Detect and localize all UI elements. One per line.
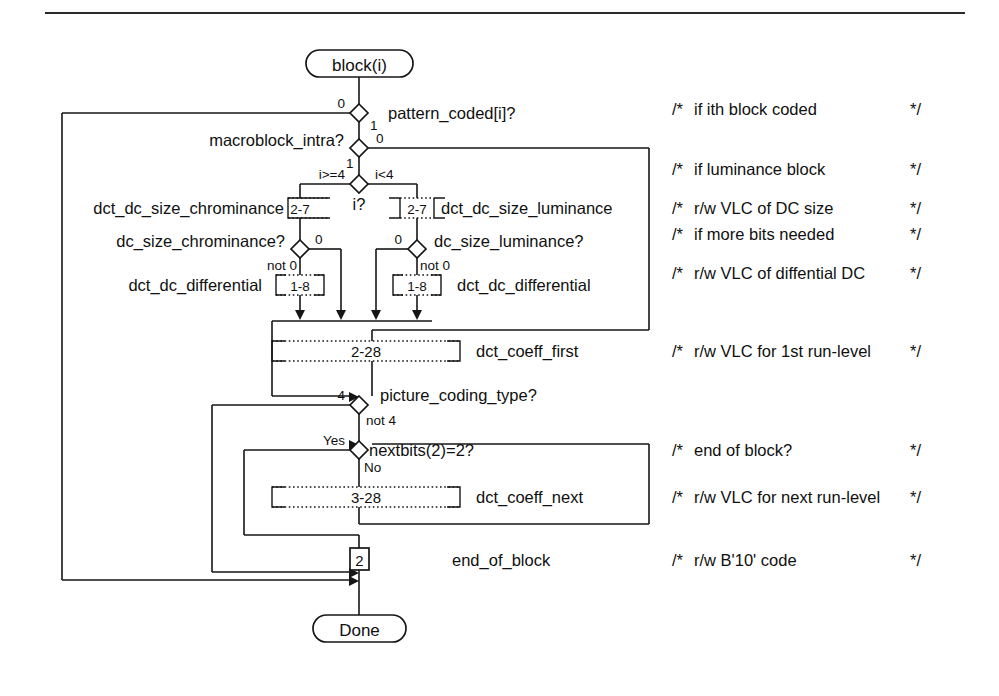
comment-text-8: r/w B'10' code	[694, 551, 797, 569]
comment-open-0: /*	[672, 100, 684, 118]
branch-label-pattern-coded-0: 0	[337, 96, 345, 111]
branch-label-picture-coding-type-4: 4	[337, 388, 345, 403]
comment-open-6: /*	[672, 441, 684, 459]
branch-label-macroblock-intra-1: 1	[346, 156, 354, 171]
comment-close-5: */	[910, 342, 921, 360]
decision-dc-size-chrominance-label: dc_size_chrominance?	[116, 232, 285, 251]
element-dct-coeff-next-label: dct_coeff_next	[476, 488, 583, 507]
terminal-end-label: Done	[339, 621, 380, 640]
comment-close-1: */	[910, 160, 921, 178]
element-dct-coeff-first-label: dct_coeff_first	[476, 342, 579, 361]
element-dct-dc-differential-left-label: dct_dc_differential	[128, 276, 262, 295]
branch-label-i-ge4: i>=4	[319, 167, 346, 182]
comment-text-6: end of block?	[694, 441, 792, 459]
decision-picture-coding-type: picture_coding_type? 4 not 4	[337, 386, 536, 428]
branch-label-picture-coding-type-not4: not 4	[366, 413, 397, 428]
comment-rw-vlc-of-dc-size: /* r/w VLC of DC size */	[672, 199, 921, 217]
element-dct-dc-differential-right-bits: 1-8	[407, 279, 427, 294]
comment-end-of-block: /* end of block? */	[672, 441, 921, 459]
element-dct-dc-size-luminance-bits: 2-7	[407, 202, 427, 217]
comment-close-6: */	[910, 441, 921, 459]
comment-if-ith-block-coded: /* if ith block coded */	[672, 100, 921, 118]
element-end-of-block: 2 end_of_block	[350, 548, 551, 570]
terminal-end: Done	[313, 615, 406, 642]
element-dct-dc-differential-right-label: dct_dc_differential	[457, 276, 591, 295]
comment-open-1: /*	[672, 160, 684, 178]
element-dct-dc-size-chrominance-label: dct_dc_size_chrominance	[93, 199, 284, 218]
element-dct-coeff-next-bits: 3-28	[351, 489, 381, 506]
decision-macroblock-intra: macroblock_intra? 0 1	[209, 131, 383, 171]
comment-text-5: r/w VLC for 1st run-level	[694, 342, 871, 360]
comment-rw-vlc-of-diffential-dc: /* r/w VLC of diffential DC */	[672, 264, 921, 282]
decision-dc-size-chrominance: dc_size_chrominance? 0 not 0	[116, 232, 322, 273]
element-dct-dc-differential-left-bits: 1-8	[290, 279, 310, 294]
decision-pattern-coded-label: pattern_coded[i]?	[388, 104, 516, 123]
comment-open-7: /*	[672, 488, 684, 506]
branch-label-macroblock-intra-0: 0	[376, 131, 384, 146]
branch-label-dc-size-luminance-not0: not 0	[420, 258, 450, 273]
comment-text-3: if more bits needed	[694, 225, 834, 243]
branch-label-dc-size-luminance-0: 0	[394, 232, 402, 247]
comment-text-4: r/w VLC of diffential DC	[694, 264, 865, 282]
comment-text-2: r/w VLC of DC size	[694, 199, 833, 217]
decision-i-label: i?	[353, 195, 366, 213]
element-dct-dc-differential-left: 1-8 dct_dc_differential	[128, 275, 324, 295]
element-end-of-block-bits: 2	[355, 552, 363, 569]
comment-open-3: /*	[672, 225, 684, 243]
decision-nextbits-label: nextbits(2)=2?	[369, 441, 474, 459]
decision-dc-size-luminance-label: dc_size_luminance?	[434, 232, 584, 251]
comment-open-2: /*	[672, 199, 684, 217]
comment-close-4: */	[910, 264, 921, 282]
element-dct-dc-size-chrominance-bits: 2-7	[290, 202, 310, 217]
comment-close-7: */	[910, 488, 921, 506]
comment-close-0: */	[910, 100, 921, 118]
decision-nextbits: nextbits(2)=2? Yes No	[323, 433, 474, 475]
comment-text-0: if ith block coded	[694, 100, 817, 118]
decision-macroblock-intra-label: macroblock_intra?	[209, 131, 344, 150]
decision-i: i? i>=4 i<4	[319, 167, 394, 213]
element-dct-coeff-next: 3-28 dct_coeff_next	[272, 487, 583, 507]
comment-text-1: if luminance block	[694, 160, 826, 178]
branch-label-dc-size-chrominance-not0: not 0	[267, 258, 297, 273]
element-end-of-block-label: end_of_block	[452, 551, 551, 570]
comment-rw-b10-code: /* r/w B'10' code */	[672, 551, 921, 569]
element-dct-dc-size-luminance-label: dct_dc_size_luminance	[441, 199, 613, 218]
decision-pattern-coded: pattern_coded[i]? 0 1	[337, 96, 515, 133]
branch-label-nextbits-yes: Yes	[323, 433, 345, 448]
element-dct-dc-differential-right: 1-8 dct_dc_differential	[393, 275, 591, 295]
branch-label-i-lt4: i<4	[375, 167, 394, 182]
comment-if-luminance-block: /* if luminance block */	[672, 160, 921, 178]
element-dct-dc-size-chrominance: 2-7 dct_dc_size_chrominance	[93, 198, 330, 218]
element-dct-coeff-first-bits: 2-28	[351, 343, 381, 360]
comment-rw-vlc-for-next-run-level: /* r/w VLC for next run-level */	[672, 488, 921, 506]
flowchart-canvas: block(i) Done pattern_coded[i]? 0 1 macr…	[0, 0, 999, 696]
flowchart-page: block(i) Done pattern_coded[i]? 0 1 macr…	[0, 0, 999, 696]
comment-if-more-bits-needed: /* if more bits needed */	[672, 225, 921, 243]
comment-open-4: /*	[672, 264, 684, 282]
decision-picture-coding-type-label: picture_coding_type?	[380, 386, 537, 405]
element-dct-dc-size-luminance: 2-7 dct_dc_size_luminance	[389, 198, 613, 218]
terminal-start-label: block(i)	[332, 56, 387, 75]
terminal-start: block(i)	[306, 50, 413, 77]
comment-close-3: */	[910, 225, 921, 243]
comment-close-8: */	[910, 551, 921, 569]
comment-close-2: */	[910, 199, 921, 217]
branch-label-dc-size-chrominance-0: 0	[315, 232, 323, 247]
branch-label-nextbits-no: No	[364, 460, 381, 475]
comment-open-8: /*	[672, 551, 684, 569]
comment-open-5: /*	[672, 342, 684, 360]
comment-rw-vlc-for-1st-run-level: /* r/w VLC for 1st run-level */	[672, 342, 921, 360]
element-dct-coeff-first: 2-28 dct_coeff_first	[272, 341, 579, 361]
decision-dc-size-luminance: dc_size_luminance? 0 not 0	[394, 232, 583, 273]
comment-text-7: r/w VLC for next run-level	[694, 488, 880, 506]
